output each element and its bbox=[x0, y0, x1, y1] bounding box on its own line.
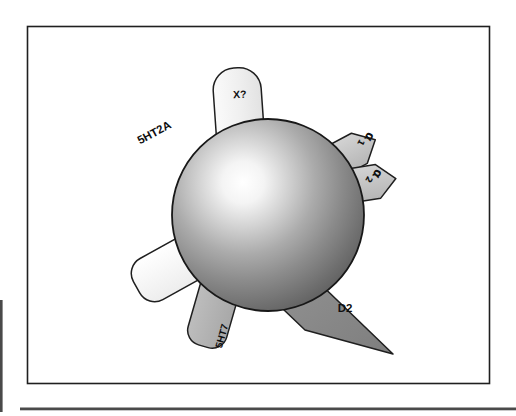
bottom-rule bbox=[20, 408, 516, 411]
figure-root: 5HT2A X? α 1 α 2 D2 5HT7 bbox=[0, 0, 516, 416]
receptor-x-unknown-label: X? bbox=[233, 88, 247, 101]
cell-sphere bbox=[172, 119, 364, 311]
receptor-d2-label: D2 bbox=[338, 302, 353, 314]
receptor-profile-diagram: 5HT2A X? α 1 α 2 D2 5HT7 bbox=[0, 0, 516, 416]
left-rule bbox=[0, 300, 3, 412]
